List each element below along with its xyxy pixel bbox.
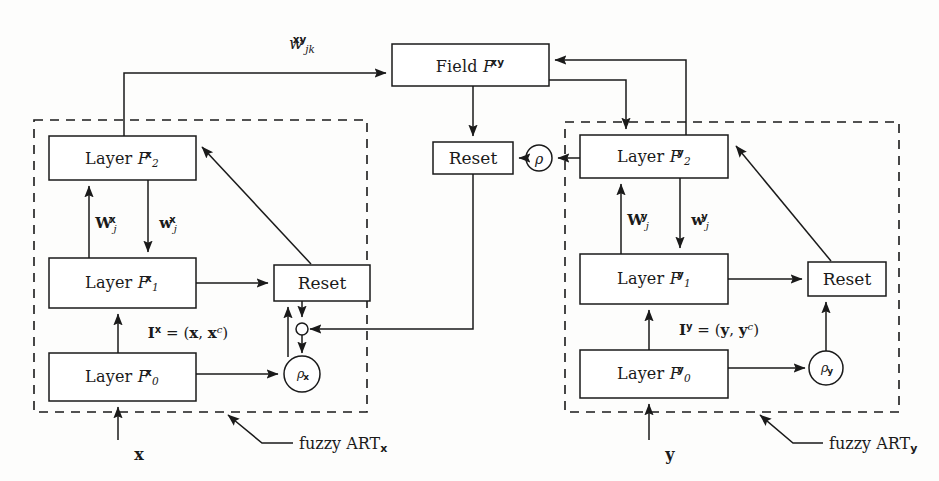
left-caption-leader — [228, 415, 293, 443]
map-reset-label: Reset — [449, 150, 497, 167]
right-reset-label: Reset — [823, 271, 871, 288]
right-f2-label: Layer Fy2 — [617, 147, 691, 167]
right-f0-label: Layer Fy0 — [617, 364, 691, 384]
left-reset-label: Reset — [298, 275, 346, 292]
right-w-label: wyj — [691, 212, 709, 231]
left-f1-label: Layer Fx1 — [85, 273, 159, 293]
right-rho-label: ρy — [821, 362, 833, 376]
left-junction-circle — [296, 323, 308, 335]
right-caption-leader — [760, 415, 823, 443]
left-f2-label: Layer Fx2 — [85, 149, 159, 169]
left-f0-label: Layer Fx0 — [85, 367, 159, 387]
edge-left-reset-to-f2 — [202, 147, 311, 264]
left-rho-label: ρx — [297, 368, 309, 382]
edge-left-f2-to-field — [124, 73, 386, 136]
edge-map-reset-to-left-junction — [310, 174, 473, 329]
right-module-caption: fuzzy ARTy — [829, 436, 917, 454]
field-xy-label: Field Fxy — [436, 57, 505, 75]
right-input-vector-label: y — [665, 447, 674, 463]
left-module-caption: fuzzy ARTx — [299, 436, 387, 454]
edge-right-f2-to-field — [555, 60, 686, 135]
right-input-expression: Iy = (y, yc) — [679, 322, 759, 339]
right-W-label: Wyj — [627, 212, 649, 231]
map-weight-label: wxyjk — [289, 34, 315, 55]
left-W-label: Wxj — [95, 215, 116, 234]
edge-right-reset-to-f2 — [736, 146, 831, 261]
diagram-canvas: Field Fxy Reset ρ wxyjk Layer Fx2 Layer … — [0, 0, 939, 481]
left-w-label: wxj — [159, 215, 176, 234]
left-input-vector-label: x — [134, 447, 144, 463]
left-input-expression: Ix = (x, xc) — [148, 325, 228, 342]
map-rho-label: ρ — [535, 152, 543, 166]
right-f1-label: Layer Fy1 — [617, 269, 691, 289]
